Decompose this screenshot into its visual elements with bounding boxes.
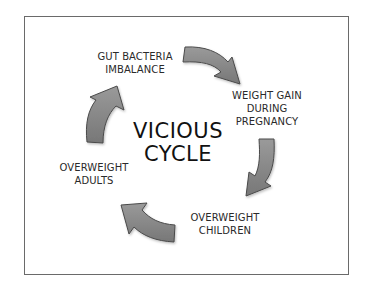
- curved-arrow-down-icon: [246, 139, 274, 196]
- node-weight-gain-during-pregnancy: WEIGHT GAIN DURING PREGNANCY: [232, 89, 302, 128]
- curved-arrow-up-icon: [86, 86, 124, 143]
- node-label-line: DURING: [232, 102, 302, 115]
- title-line-1: VICIOUS: [133, 120, 223, 143]
- title-line-2: CYCLE: [133, 143, 223, 166]
- node-label-line: WEIGHT GAIN: [232, 89, 302, 102]
- node-label-line: GUT BACTERIA: [97, 50, 172, 63]
- node-overweight-adults: OVERWEIGHT ADULTS: [60, 161, 129, 187]
- curved-arrow-right-icon: [183, 47, 240, 84]
- diagram-title: VICIOUS CYCLE: [133, 120, 223, 166]
- node-label-line: OVERWEIGHT: [60, 161, 129, 174]
- curved-arrow-left-icon: [121, 203, 175, 242]
- node-label-line: OVERWEIGHT: [191, 211, 260, 224]
- node-overweight-children: OVERWEIGHT CHILDREN: [191, 211, 260, 237]
- node-label-line: IMBALANCE: [97, 63, 172, 76]
- node-label-line: CHILDREN: [191, 224, 260, 237]
- node-label-line: PREGNANCY: [232, 115, 302, 128]
- node-label-line: ADULTS: [60, 174, 129, 187]
- node-gut-bacteria-imbalance: GUT BACTERIA IMBALANCE: [97, 50, 172, 76]
